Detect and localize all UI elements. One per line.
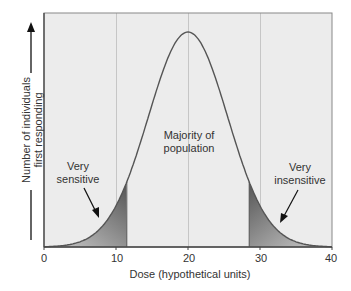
- majority-label-line1: Majority of: [164, 129, 216, 141]
- very-sensitive-label-line1: Very: [67, 160, 90, 172]
- y-axis-arrow-icon: [27, 22, 35, 32]
- x-tick-label-20: 20: [183, 252, 195, 264]
- x-tick-label-10: 10: [111, 252, 123, 264]
- y-axis-label-line1: Number of individuals: [20, 77, 32, 183]
- y-axis-label: Number of individuals first responding: [20, 77, 44, 183]
- very-sensitive-label-line2: sensitive: [57, 173, 100, 185]
- very-insensitive-label-line1: Very: [289, 161, 312, 173]
- x-tick-label-30: 30: [255, 252, 267, 264]
- y-axis-label-line2: first responding: [32, 92, 44, 167]
- dose-response-chart: 0 10 20 30 40 Dose (hypothetical units) …: [0, 0, 351, 291]
- majority-label-line2: population: [164, 142, 215, 154]
- x-axis-label: Dose (hypothetical units): [129, 268, 250, 280]
- very-insensitive-label-line2: insensitive: [274, 174, 325, 186]
- x-tick-label-0: 0: [41, 252, 47, 264]
- x-tick-label-40: 40: [325, 252, 337, 264]
